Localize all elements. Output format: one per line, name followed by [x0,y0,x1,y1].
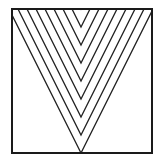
square-frame [12,9,152,153]
chevron-line [6,0,156,45]
chevron-line [6,0,156,9]
chevron-line [6,0,156,27]
chevron-pattern-figure [0,0,159,165]
chevron-line [6,0,156,135]
chevron-line [6,0,156,99]
chevron-line [6,3,156,153]
chevron-lines [6,0,156,153]
